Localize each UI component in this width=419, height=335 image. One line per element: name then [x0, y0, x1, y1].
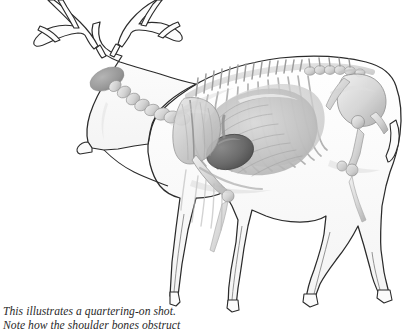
caption-block: This illustrates a quartering-on shot. N…: [3, 305, 233, 333]
hip-joint: [352, 116, 365, 129]
caption-line-2: Note how the shoulder bones obstruct: [3, 319, 233, 333]
illustration-figure: This illustrates a quartering-on shot. N…: [0, 0, 419, 335]
caption-line-1: This illustrates a quartering-on shot.: [3, 305, 233, 319]
aorta: [223, 116, 224, 137]
deer-anatomy-illustration: [0, 0, 419, 335]
